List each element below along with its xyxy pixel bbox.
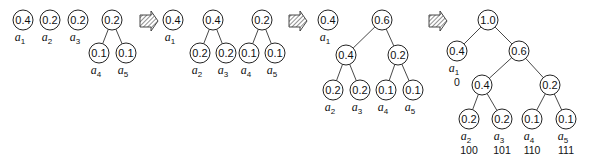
symbol-label: a1 — [320, 30, 331, 46]
node-probability: 0.6 — [374, 14, 389, 26]
node-probability: 1.0 — [480, 14, 495, 26]
tree-node: 0.2a2 — [323, 80, 343, 116]
symbol-label: a4 — [91, 63, 102, 79]
huffman-code: 110 — [524, 144, 541, 156]
node-probability: 0.4 — [338, 49, 353, 61]
tree-edge — [350, 64, 357, 80]
tree-edge — [489, 58, 511, 78]
tree-node: 0.2a3 — [216, 43, 236, 79]
node-probability: 0.1 — [405, 84, 420, 96]
node-probability: 0.2 — [70, 14, 85, 26]
hatched-right-arrow-icon — [429, 11, 447, 31]
symbol-label: a4 — [378, 100, 389, 116]
node-probability: 0.1 — [118, 47, 133, 59]
symbol-label: a3 — [218, 63, 229, 79]
symbol-label: a1 — [449, 61, 460, 77]
node-probability: 0.1 — [91, 47, 106, 59]
symbol-label: a3 — [352, 100, 363, 116]
tree-node: 0.2a3 — [68, 10, 88, 46]
tree-node: 0.4 — [203, 10, 223, 30]
tree-edge — [253, 29, 259, 43]
tree-edge — [495, 27, 512, 44]
tree-edge — [353, 27, 375, 48]
tree-nodes: 0.4a10.2a20.2a30.20.1a40.1a50.4a10.40.2a… — [13, 10, 576, 156]
tree-node: 0.6 — [509, 41, 529, 61]
symbol-label: a3 — [494, 129, 505, 145]
node-probability: 0.4 — [205, 14, 220, 26]
node-probability: 0.2 — [218, 47, 233, 59]
tree-edge — [337, 64, 343, 80]
tree-node: 0.1a5 — [265, 43, 285, 79]
node-probability: 0.2 — [390, 49, 405, 61]
tree-node: 0.2a2100 — [459, 109, 479, 156]
symbol-label: a5 — [118, 63, 129, 79]
huffman-code: 101 — [493, 144, 511, 156]
node-probability: 0.2 — [325, 84, 340, 96]
node-probability: 0.1 — [267, 47, 282, 59]
tree-node: 0.4a1 — [13, 10, 33, 46]
node-probability: 0.4 — [320, 14, 335, 26]
tree-node: 0.1a4 — [239, 43, 259, 79]
symbol-label: a1 — [165, 30, 176, 46]
tree-edge — [464, 27, 481, 44]
tree-node: 0.4 — [472, 75, 492, 95]
tree-edge — [526, 58, 544, 77]
node-probability: 0.1 — [524, 113, 539, 125]
node-probability: 0.2 — [254, 14, 269, 26]
node-probability: 0.2 — [352, 84, 367, 96]
tree-node: 0.2a2 — [40, 10, 60, 46]
symbol-label: a2 — [192, 63, 203, 79]
symbol-label: a2 — [325, 100, 336, 116]
node-probability: 0.4 — [15, 14, 30, 26]
tree-node: 0.4a1 — [163, 10, 183, 46]
tree-node: 0.2 — [540, 75, 560, 95]
symbol-label: a2 — [42, 30, 53, 46]
tree-node: 0.2 — [388, 45, 408, 65]
tree-node: 1.0 — [478, 10, 498, 30]
symbol-label: a2 — [461, 129, 472, 145]
tree-edge — [389, 65, 395, 81]
tree-edge — [473, 94, 479, 109]
node-probability: 0.6 — [511, 45, 526, 57]
tree-node: 0.1a4 — [376, 80, 396, 116]
node-probability: 0.2 — [192, 47, 207, 59]
node-probability: 0.2 — [104, 14, 119, 26]
symbol-label: a3 — [70, 30, 81, 46]
tree-node: 0.1a5 — [403, 80, 423, 116]
node-probability: 0.1 — [558, 113, 573, 125]
stage-arrows — [140, 11, 447, 31]
huffman-diagram: 0.4a10.2a20.2a30.20.1a40.1a50.4a10.40.2a… — [0, 0, 592, 156]
tree-node: 0.2a3 — [350, 80, 370, 116]
diagram-canvas: 0.4a10.2a20.2a30.20.1a40.1a50.4a10.40.2a… — [0, 0, 592, 156]
tree-node: 0.4a1 — [318, 10, 338, 46]
tree-edge — [537, 94, 546, 110]
node-probability: 0.4 — [165, 14, 180, 26]
tree-edge — [204, 29, 210, 43]
symbol-label: a4 — [241, 63, 252, 79]
node-probability: 0.2 — [494, 113, 509, 125]
node-probability: 0.4 — [449, 45, 464, 57]
huffman-code: 111 — [558, 144, 574, 156]
tree-edge — [217, 29, 223, 43]
tree-node: 0.2a3101 — [492, 109, 512, 156]
huffman-code: 0 — [454, 76, 460, 88]
node-probability: 0.1 — [241, 47, 256, 59]
symbol-label: a5 — [558, 129, 569, 145]
tree-edge — [386, 29, 394, 46]
tree-node: 0.1a5111 — [556, 109, 576, 156]
hatched-right-arrow-icon — [140, 11, 158, 31]
tree-node: 0.4 — [336, 45, 356, 65]
symbol-label: a5 — [267, 63, 278, 79]
hatched-right-arrow-icon — [289, 11, 307, 31]
tree-node: 0.2 — [252, 10, 272, 30]
tree-node: 0.2 — [102, 10, 122, 30]
node-probability: 0.2 — [461, 113, 476, 125]
tree-edge — [554, 94, 561, 110]
tree-node: 0.6 — [372, 10, 392, 30]
node-probability: 0.2 — [42, 14, 57, 26]
tree-node: 0.1a4110 — [522, 109, 542, 156]
symbol-label: a1 — [15, 30, 26, 46]
huffman-code: 100 — [460, 144, 478, 156]
tree-node: 0.1a4 — [89, 43, 109, 79]
symbol-label: a4 — [524, 129, 535, 145]
